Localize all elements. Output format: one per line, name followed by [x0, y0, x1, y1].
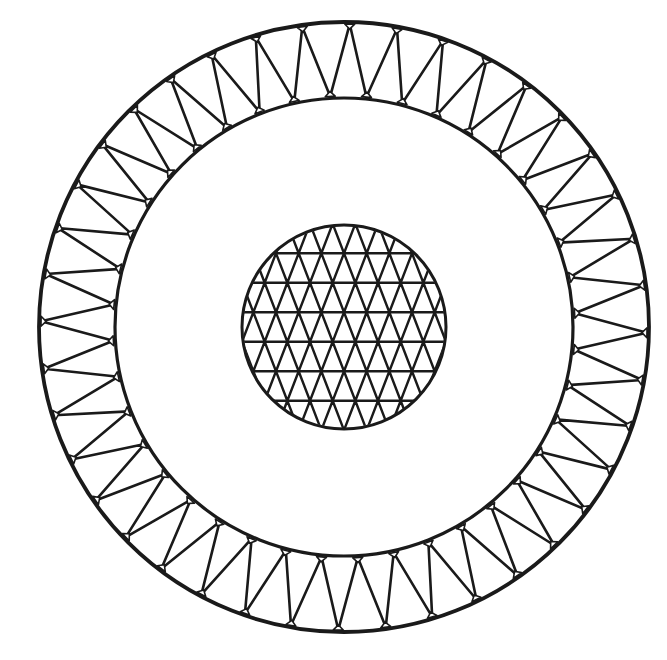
outer-strand-layer: [39, 22, 649, 632]
strand-fillet: [333, 625, 343, 630]
strand-fillet: [573, 344, 578, 354]
core-strand-zigzag: [208, 371, 491, 401]
strand-fillet: [361, 92, 371, 97]
core-strand-zigzag: [197, 224, 492, 254]
core-strand-zigzag: [197, 342, 492, 372]
core-strand-zigzag: [197, 283, 492, 313]
core-strand-zigzag: [197, 401, 492, 431]
strand-fillet: [109, 300, 114, 310]
strand-fillet: [108, 336, 113, 346]
strand-fillet: [45, 269, 51, 279]
strand-fillet: [297, 26, 307, 32]
strand-fillet: [43, 364, 49, 374]
inner-boundary-circle: [115, 98, 573, 556]
cable-cross-section-diagram: [0, 0, 667, 660]
core-strand-zigzag: [208, 430, 491, 460]
strand-fillet: [353, 557, 363, 562]
strand-fillet: [345, 24, 355, 29]
core-strand-bundle: [197, 194, 492, 460]
strand-fillet: [392, 28, 402, 34]
strand-fillet: [639, 280, 645, 290]
strand-fillet: [325, 91, 335, 96]
strand-fillet: [317, 556, 327, 561]
strand-fillet: [381, 622, 391, 628]
strand-divider-zigzag: [41, 24, 647, 630]
core-strand-zigzag: [208, 194, 491, 224]
strand-fillet: [574, 308, 579, 318]
strand-fillet: [41, 316, 46, 326]
strand-fillet: [286, 620, 296, 626]
strand-fillet: [642, 328, 647, 338]
outer-boundary-circle: [39, 22, 649, 632]
strand-fillet: [637, 375, 643, 385]
core-strand-zigzag: [208, 312, 491, 342]
core-strand-zigzag: [208, 253, 491, 283]
